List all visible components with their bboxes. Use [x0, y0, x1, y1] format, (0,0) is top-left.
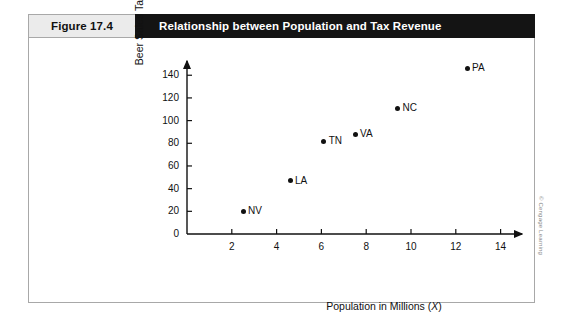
- x-tick-label: 8: [353, 242, 379, 252]
- figure-title: Relationship between Population and Tax …: [159, 20, 441, 32]
- data-point-label: NC: [403, 103, 417, 113]
- x-axis-ticks: [232, 229, 501, 234]
- x-axis-title: Population in Millions (X): [214, 300, 554, 312]
- data-point: [395, 106, 400, 111]
- x-tick-label: 4: [264, 242, 290, 252]
- y-tick-label: 40: [149, 184, 179, 194]
- x-tick-label: 10: [398, 242, 424, 252]
- data-point: [321, 139, 326, 144]
- y-tick-label: 80: [149, 138, 179, 148]
- y-tick-label: 60: [149, 161, 179, 171]
- y-axis-ticks: [187, 75, 192, 211]
- scatter-plot: Beer Sales Tax Revenue (Y) Population in…: [28, 38, 535, 303]
- figure-number-chip: Figure 17.4: [28, 14, 135, 38]
- data-point-label: LA: [295, 176, 307, 186]
- data-point: [288, 178, 293, 183]
- figure-title-bar: Relationship between Population and Tax …: [135, 14, 535, 38]
- x-tick-label: 2: [219, 242, 245, 252]
- data-point: [241, 209, 246, 214]
- chart-axes: [28, 38, 535, 303]
- data-point-label: NV: [248, 206, 262, 216]
- x-tick-label: 12: [443, 242, 469, 252]
- data-point: [353, 132, 358, 137]
- y-tick-label: 100: [149, 116, 179, 126]
- figure-header: Figure 17.4 Relationship between Populat…: [28, 14, 535, 38]
- data-point: [465, 66, 470, 71]
- data-point-label: TN: [329, 136, 342, 146]
- x-tick-label: 14: [488, 242, 514, 252]
- data-point-label: VA: [360, 129, 373, 139]
- y-tick-label: 140: [149, 70, 179, 80]
- y-tick-label: 0: [149, 229, 179, 239]
- y-tick-label: 120: [149, 93, 179, 103]
- data-point-label: PA: [472, 63, 485, 73]
- figure-number-label: Figure 17.4: [51, 20, 113, 32]
- credit-text: © Cengage Learning: [538, 196, 544, 255]
- x-tick-label: 6: [308, 242, 334, 252]
- y-tick-label: 20: [149, 206, 179, 216]
